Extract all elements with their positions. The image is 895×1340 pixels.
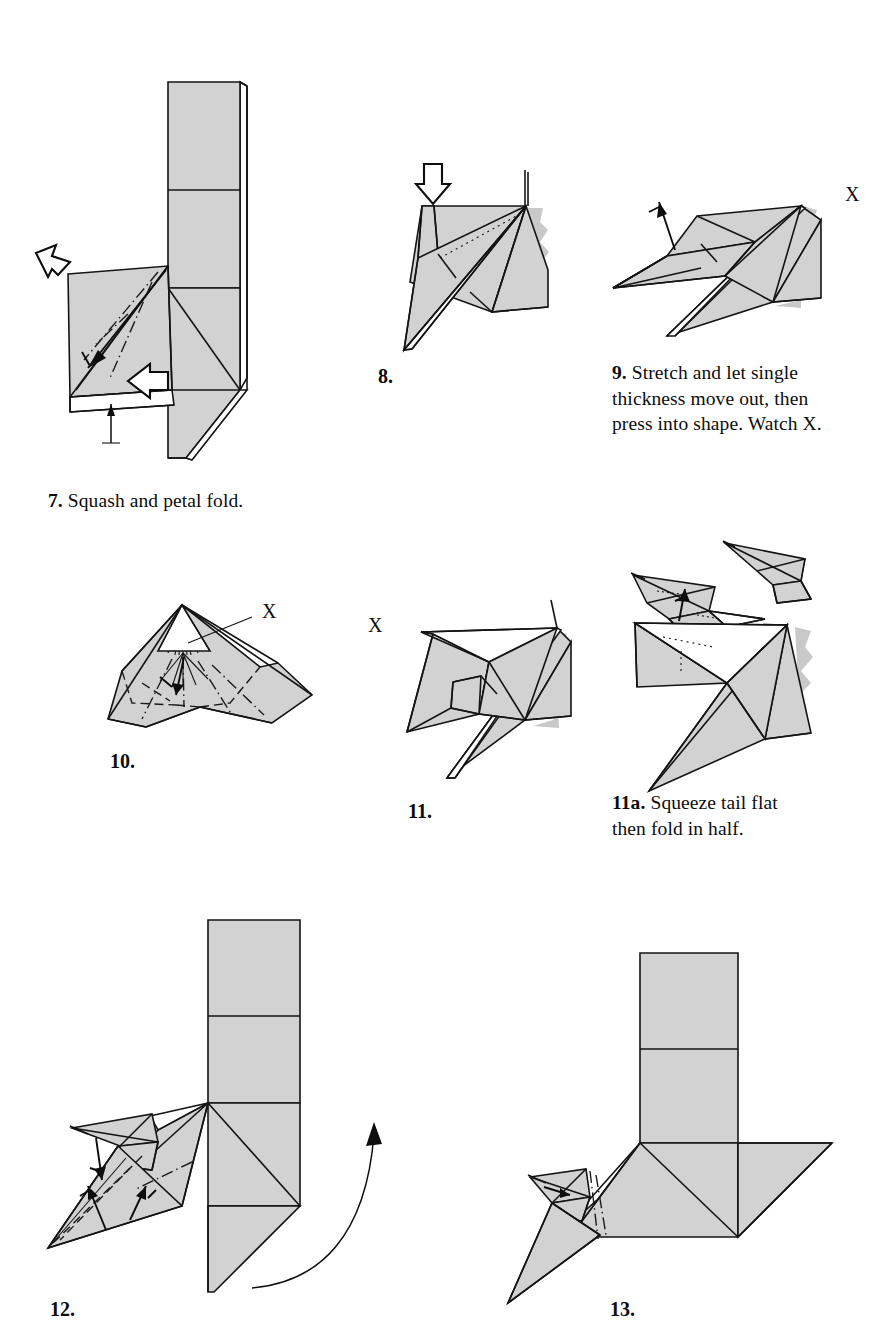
marker-x-step-9: X [845, 183, 859, 206]
step-text-9-line2: thickness move out, then [612, 386, 892, 412]
step-number-11: 11. [408, 800, 432, 823]
marker-x-step-11: X [368, 614, 382, 637]
figure-step-7 [0, 60, 300, 480]
step-number-13: 13. [610, 1298, 635, 1321]
step-number-9: 9. [612, 362, 627, 383]
figure-step-9 [605, 180, 860, 340]
origami-instruction-page: 7. Squash and petal fold. [0, 0, 895, 1340]
figure-step-11 [385, 600, 615, 800]
caption-step-7: 7. Squash and petal fold. [48, 488, 348, 514]
step-number-12: 12. [50, 1298, 75, 1321]
figure-step-12 [30, 890, 450, 1310]
figure-step-11a [605, 525, 895, 790]
step-text-9-line3: press into shape. Watch X. [612, 411, 892, 437]
inset-upper [723, 541, 811, 603]
figure-step-8 [400, 160, 610, 360]
step-number-8: 8. [378, 365, 393, 388]
step-number-10: 10. [110, 750, 135, 773]
step-text-7: Squash and petal fold. [68, 490, 244, 511]
marker-x-step-10: X [262, 600, 276, 623]
figure-step-10 [80, 595, 340, 755]
figure-step-13 [490, 915, 890, 1315]
caption-step-11a: 11a. Squeeze tail flat then fold in half… [612, 790, 892, 841]
main-11a [635, 623, 813, 791]
step-number-7: 7. [48, 490, 63, 511]
step-text-11a-line1: Squeeze tail flat [650, 792, 777, 813]
step-text-9-line1: Stretch and let single [632, 362, 798, 383]
caption-step-9: 9. Stretch and let single thickness move… [612, 360, 892, 437]
step-number-11a: 11a. [612, 792, 645, 813]
step-text-11a-line2: then fold in half. [612, 816, 892, 842]
